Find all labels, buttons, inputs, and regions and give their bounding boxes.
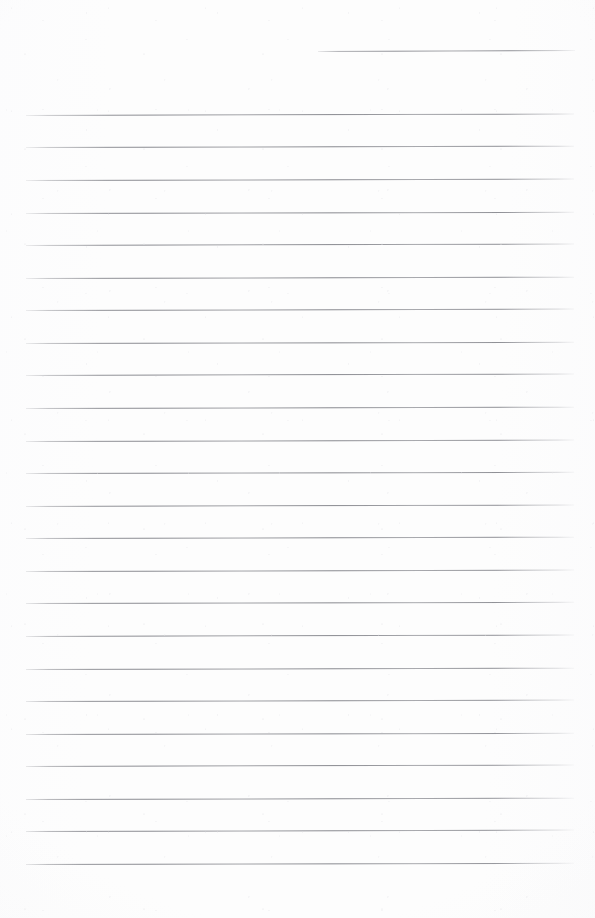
rule-20	[26, 733, 574, 735]
rule-21	[26, 764, 574, 767]
rule-24	[26, 863, 574, 865]
rule-22	[26, 798, 574, 800]
rule-17	[26, 634, 574, 637]
rule-13	[26, 504, 574, 507]
rule-02	[26, 146, 574, 148]
paper-texture-overlay	[0, 0, 595, 918]
rule-19	[26, 700, 574, 702]
rule-15	[26, 570, 574, 572]
paper-speckle-overlay	[0, 0, 595, 918]
rule-top-partial	[318, 50, 575, 52]
rule-04	[26, 212, 574, 214]
rule-18	[26, 668, 574, 670]
rule-14	[26, 537, 574, 539]
rule-06	[26, 277, 574, 279]
rule-08	[26, 342, 574, 344]
rule-11	[26, 440, 574, 442]
rule-03	[26, 179, 574, 181]
rule-07	[26, 309, 574, 311]
rule-09	[26, 373, 574, 376]
rule-01	[26, 113, 574, 116]
rule-10	[26, 407, 574, 409]
rule-12	[26, 472, 574, 474]
rule-16	[26, 602, 574, 604]
scanned-page	[0, 0, 595, 918]
rule-23	[26, 830, 574, 832]
rule-05	[26, 243, 574, 246]
